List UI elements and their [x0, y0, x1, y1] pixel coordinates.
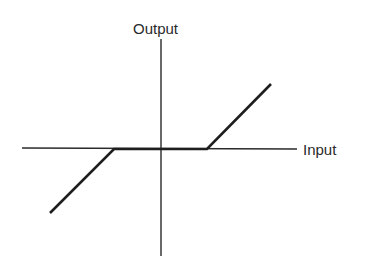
- x-axis-label: Input: [303, 142, 336, 157]
- dead-zone-diagram: Output Input: [0, 0, 368, 263]
- y-axis-label: Output: [133, 21, 178, 36]
- diagram-canvas: [0, 0, 368, 263]
